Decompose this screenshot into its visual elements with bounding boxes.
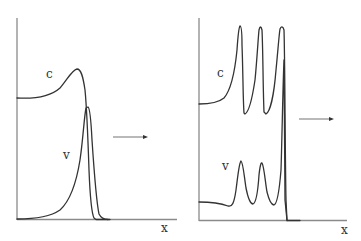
right-arrowhead-icon (329, 117, 334, 121)
right-v-label: v (221, 159, 229, 173)
left-c-label: c (46, 67, 53, 81)
right-c-label: c (217, 66, 224, 80)
left-v-label: v (62, 148, 70, 162)
diagram-canvas: c v x c v x (0, 0, 361, 241)
right-panel: c v x (199, 18, 348, 237)
left-panel: c v x (17, 18, 177, 235)
left-arrowhead-icon (143, 135, 148, 139)
diagram-figure: c v x c v x (0, 0, 361, 241)
left-v-curve (17, 107, 108, 220)
right-x-label: x (341, 223, 348, 237)
left-x-label: x (161, 221, 168, 235)
